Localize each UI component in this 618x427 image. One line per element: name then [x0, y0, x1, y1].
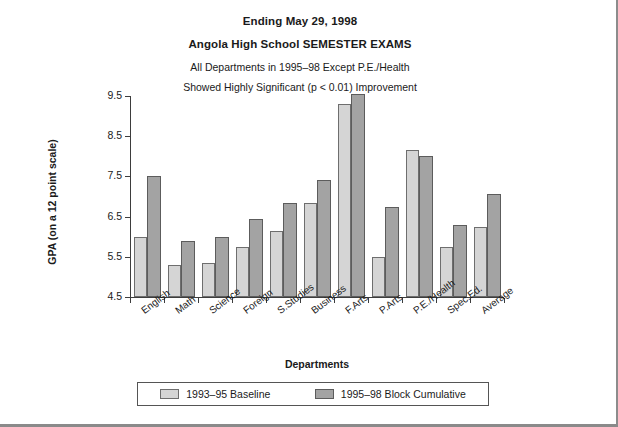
bar-s-studies-series2 [283, 203, 297, 297]
y-tick [125, 96, 130, 97]
y-tick [125, 217, 130, 218]
bar-p-arts-series2 [385, 207, 399, 297]
y-tick-label: 6.5 [88, 211, 122, 222]
x-tick [198, 298, 199, 303]
bar-english-series2 [147, 176, 161, 297]
bar-foreign-series2 [249, 219, 263, 297]
y-tick [125, 136, 130, 137]
bar-math-series2 [181, 241, 195, 297]
y-axis-line [130, 96, 131, 298]
y-tick-label: 9.5 [88, 90, 122, 101]
legend-swatch-baseline [160, 389, 179, 399]
chart-page: Ending May 29, 1998 Angola High School S… [0, 0, 618, 427]
legend-entry-block-cumulative: 1995–98 Block Cumulative [315, 388, 466, 400]
bar-p-arts-series1 [372, 257, 386, 297]
bar-f-arts-series1 [338, 104, 352, 297]
y-tick-label: 8.5 [88, 130, 122, 141]
plot-area: GPA (on a 12 point scale) Departments 4.… [0, 0, 618, 427]
legend-swatch-block-cumulative [315, 389, 334, 399]
chart-legend: 1993–95 Baseline 1995–98 Block Cumulativ… [137, 382, 489, 406]
bar-s-studies-series1 [270, 231, 284, 297]
legend-label-baseline: 1993–95 Baseline [186, 388, 270, 400]
bar-english-series1 [134, 237, 148, 297]
y-tick-label: 5.5 [88, 251, 122, 262]
bar-science-series2 [215, 237, 229, 297]
x-tick [130, 298, 131, 303]
y-tick [125, 257, 130, 258]
y-tick [125, 176, 130, 177]
y-tick-label: 7.5 [88, 170, 122, 181]
bar-p-e-health-series1 [406, 150, 420, 297]
y-tick-label: 4.5 [88, 291, 122, 302]
bar-f-arts-series2 [351, 94, 365, 297]
legend-label-block-cumulative: 1995–98 Block Cumulative [341, 388, 466, 400]
legend-entry-baseline: 1993–95 Baseline [160, 388, 270, 400]
bar-average-series2 [487, 194, 501, 297]
x-axis-title: Departments [130, 358, 504, 370]
bar-p-e-health-series2 [419, 156, 433, 297]
y-axis-title: GPA (on a 12 point scale) [46, 117, 58, 287]
bar-business-series2 [317, 180, 331, 297]
bar-science-series1 [202, 263, 216, 297]
